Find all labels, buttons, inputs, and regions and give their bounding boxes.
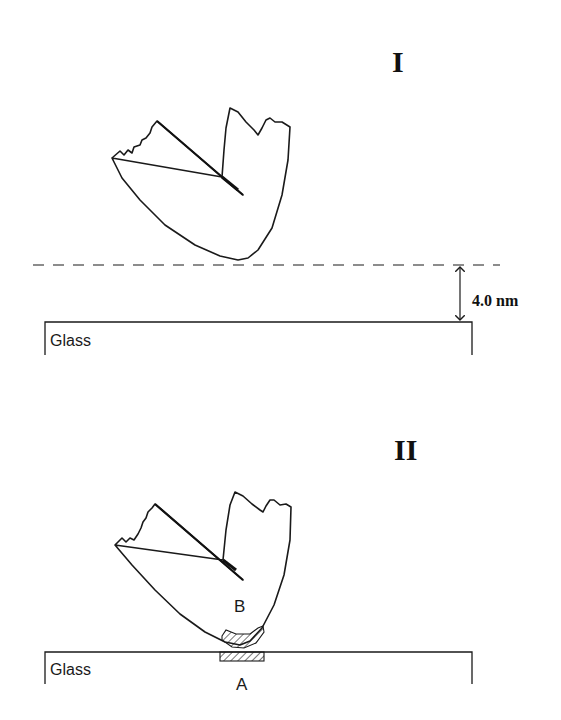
region-label-a: A [236,675,248,694]
region-label-b: B [234,597,245,616]
glass-substrate-one [45,322,472,355]
panel-one: I 4.0 nm Glass [33,45,519,355]
panel-label-one: I [392,45,404,78]
diagram-canvas: I 4.0 nm Glass II B [0,0,561,720]
panel-label-two: II [394,433,417,466]
contact-zone-b [222,626,264,648]
glass-label-two: Glass [50,661,91,678]
separation-label: 4.0 nm [472,292,519,309]
particle-one [112,108,290,260]
panel-two: II B Glass A [45,433,472,694]
contact-zone-a [220,652,264,661]
particle-two [115,492,291,645]
glass-label-one: Glass [50,332,91,349]
